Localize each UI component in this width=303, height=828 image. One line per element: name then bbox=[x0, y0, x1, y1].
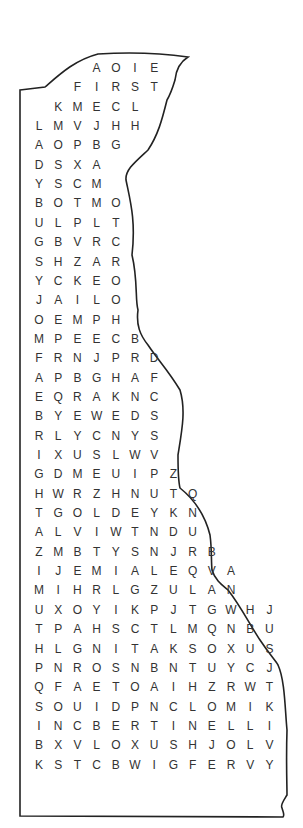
grid-letter: D bbox=[30, 157, 48, 173]
grid-letter: V bbox=[145, 447, 163, 463]
grid-letter: I bbox=[68, 292, 86, 308]
grid-letter: D bbox=[107, 699, 125, 715]
grid-letter: Z bbox=[30, 544, 48, 560]
grid-letter: J bbox=[88, 350, 106, 366]
grid-letter: L bbox=[30, 118, 48, 134]
grid-letter: U bbox=[30, 602, 48, 618]
grid-letter: J bbox=[203, 737, 221, 753]
grid-letter: T bbox=[126, 641, 144, 657]
grid-letter: A bbox=[88, 157, 106, 173]
grid-letter: Y bbox=[68, 428, 86, 444]
grid-letter: A bbox=[88, 60, 106, 76]
grid-letter: G bbox=[88, 370, 106, 386]
grid-letter: L bbox=[49, 215, 67, 231]
grid-letter: T bbox=[145, 621, 163, 637]
grid-letter: D bbox=[145, 350, 163, 366]
grid-letter: L bbox=[88, 215, 106, 231]
grid-letter: N bbox=[145, 524, 163, 540]
grid-letter: I bbox=[30, 447, 48, 463]
grid-letter: Y bbox=[222, 660, 240, 676]
grid-letter: I bbox=[260, 718, 278, 734]
grid-letter: B bbox=[241, 621, 259, 637]
grid-letter: K bbox=[260, 699, 278, 715]
grid-letter: W bbox=[241, 679, 259, 695]
grid-letter: G bbox=[30, 234, 48, 250]
grid-letter: E bbox=[68, 408, 86, 424]
grid-letter: F bbox=[49, 679, 67, 695]
grid-letter: M bbox=[222, 699, 240, 715]
grid-letter: L bbox=[107, 582, 125, 598]
grid-letter: Y bbox=[30, 176, 48, 192]
grid-letter: E bbox=[107, 408, 125, 424]
grid-letter: U bbox=[260, 621, 278, 637]
grid-letter: C bbox=[241, 660, 259, 676]
grid-letter: R bbox=[88, 234, 106, 250]
grid-letter: Z bbox=[164, 466, 182, 482]
grid-letter: C bbox=[88, 757, 106, 773]
grid-letter: T bbox=[107, 679, 125, 695]
grid-letter: M bbox=[49, 544, 67, 560]
grid-letter: J bbox=[164, 602, 182, 618]
grid-letter: R bbox=[88, 582, 106, 598]
grid-letter: W bbox=[126, 447, 144, 463]
grid-letter: M bbox=[68, 466, 86, 482]
grid-letter: A bbox=[203, 582, 221, 598]
grid-letter: S bbox=[88, 447, 106, 463]
grid-letter: B bbox=[30, 737, 48, 753]
grid-letter: D bbox=[49, 466, 67, 482]
grid-letter: S bbox=[126, 79, 144, 95]
grid-letter: M bbox=[49, 118, 67, 134]
grid-letter: I bbox=[164, 679, 182, 695]
grid-letter: H bbox=[68, 582, 86, 598]
grid-letter: P bbox=[145, 466, 163, 482]
grid-letter: A bbox=[88, 254, 106, 270]
grid-letter: E bbox=[88, 99, 106, 115]
grid-letter: O bbox=[88, 660, 106, 676]
grid-letter: T bbox=[68, 195, 86, 211]
grid-letter: H bbox=[126, 118, 144, 134]
grid-letter: W bbox=[88, 408, 106, 424]
grid-letter: P bbox=[126, 699, 144, 715]
grid-letter: W bbox=[49, 486, 67, 502]
grid-letter: O bbox=[107, 60, 125, 76]
grid-letter: K bbox=[68, 273, 86, 289]
grid-letter: H bbox=[88, 621, 106, 637]
grid-letter: Z bbox=[68, 254, 86, 270]
grid-letter: U bbox=[68, 447, 86, 463]
grid-letter: A bbox=[49, 292, 67, 308]
grid-letter: A bbox=[222, 563, 240, 579]
grid-letter: D bbox=[164, 524, 182, 540]
grid-letter: E bbox=[203, 718, 221, 734]
grid-letter: A bbox=[88, 389, 106, 405]
grid-letter: L bbox=[88, 737, 106, 753]
grid-letter: O bbox=[107, 292, 125, 308]
grid-letter: I bbox=[241, 699, 259, 715]
grid-letter: C bbox=[107, 99, 125, 115]
grid-letter: A bbox=[30, 524, 48, 540]
grid-letter: O bbox=[107, 195, 125, 211]
grid-letter: E bbox=[68, 331, 86, 347]
grid-letter: M bbox=[88, 176, 106, 192]
grid-letter: F bbox=[184, 757, 202, 773]
grid-letter: K bbox=[126, 602, 144, 618]
grid-letter: C bbox=[88, 428, 106, 444]
grid-letter: Z bbox=[203, 679, 221, 695]
grid-letter: O bbox=[107, 273, 125, 289]
grid-letter: S bbox=[107, 660, 125, 676]
grid-letter: H bbox=[30, 641, 48, 657]
grid-letter: E bbox=[49, 312, 67, 328]
grid-letter: M bbox=[68, 99, 86, 115]
grid-letter: S bbox=[107, 621, 125, 637]
grid-letter: I bbox=[49, 582, 67, 598]
grid-letter: B bbox=[145, 660, 163, 676]
grid-letter: B bbox=[30, 408, 48, 424]
grid-letter: O bbox=[68, 505, 86, 521]
grid-letter: Y bbox=[260, 757, 278, 773]
grid-letter: K bbox=[107, 389, 125, 405]
letter-grid: AOIEFIRSTKMECLLMVJHHAOPBGDSXAYSCMBOTMOUL… bbox=[0, 0, 303, 828]
grid-letter: X bbox=[49, 737, 67, 753]
grid-letter: S bbox=[145, 408, 163, 424]
grid-letter: T bbox=[68, 757, 86, 773]
grid-letter: U bbox=[30, 215, 48, 231]
grid-letter: H bbox=[30, 486, 48, 502]
